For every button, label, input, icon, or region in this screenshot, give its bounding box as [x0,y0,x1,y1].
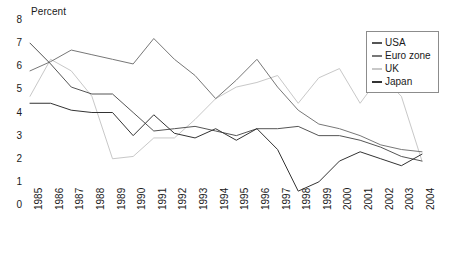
legend-item[interactable]: Japan [372,75,431,88]
legend-color-swatch [372,81,382,83]
series-line [30,103,422,191]
y-axis-tick: 6 [4,61,22,71]
legend-label: UK [385,64,399,74]
y-axis-tick: 5 [4,84,22,94]
chart-container: Percent 012345678 1985198619871988198919… [0,0,470,258]
y-axis-title: Percent [31,6,66,17]
y-axis-tick: 1 [4,177,22,187]
y-axis-tick: 7 [4,38,22,48]
y-axis-tick: 2 [4,154,22,164]
series-line [30,43,422,161]
y-axis-tick: 4 [4,108,22,118]
legend-color-swatch [372,68,382,70]
series-line [30,59,422,161]
legend-label: USA [385,38,406,48]
y-axis-tick: 0 [4,200,22,210]
y-axis-tick: 8 [4,15,22,25]
legend-item[interactable]: USA [372,36,431,49]
legend-item[interactable]: Euro zone [372,49,431,62]
legend-label: Japan [385,77,412,87]
legend-color-swatch [372,42,382,44]
legend-color-swatch [372,55,382,57]
y-axis-tick: 3 [4,131,22,141]
legend-item[interactable]: UK [372,62,431,75]
legend-label: Euro zone [385,51,431,61]
legend: USAEuro zoneUKJapan [366,31,439,93]
